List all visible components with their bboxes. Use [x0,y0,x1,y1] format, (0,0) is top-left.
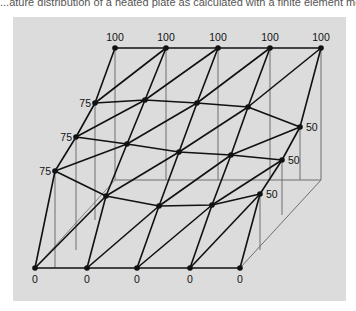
node-labels: 100 100 100 100 100 75 75 75 50 50 50 0 … [32,31,330,285]
bottom-label: 0 [237,273,243,285]
right-label: 50 [288,154,300,166]
top-label: 100 [261,31,279,43]
right-label: 50 [306,121,318,133]
right-label: 50 [266,188,278,200]
bottom-label: 0 [134,273,140,285]
bottom-label: 0 [187,273,193,285]
bottom-label: 0 [32,273,38,285]
mesh-edges [35,48,321,268]
top-label: 100 [312,31,330,43]
bottom-label: 0 [84,273,90,285]
left-label: 75 [60,131,72,143]
left-label: 75 [79,97,91,109]
left-label: 75 [39,165,51,177]
top-label: 100 [157,31,175,43]
top-label: 100 [106,31,124,43]
mesh-diagram: 100 100 100 100 100 75 75 75 50 50 50 0 … [0,0,356,311]
top-label: 100 [209,31,227,43]
base-plane-guides [35,48,321,268]
